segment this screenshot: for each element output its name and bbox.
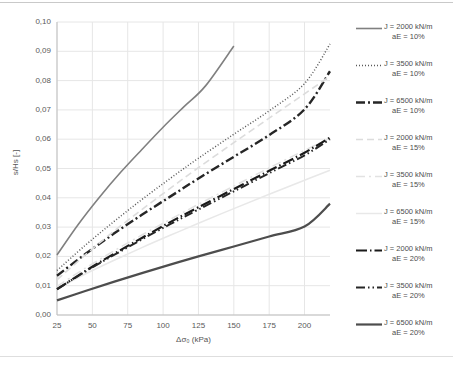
- series-line: [57, 46, 234, 255]
- series-line: [57, 71, 330, 276]
- y-tick-label: 0,06: [21, 134, 51, 143]
- legend-label: J = 2000 kN/maE = 20%: [382, 244, 433, 264]
- legend-line-swatch: [356, 97, 382, 108]
- x-tick-label: 125: [183, 321, 213, 330]
- legend-label-line1: J = 6500 kN/m: [382, 318, 433, 328]
- x-tick-label: 50: [77, 321, 107, 330]
- y-tick-label: 0,08: [21, 76, 51, 85]
- legend-line-swatch: [356, 319, 382, 330]
- x-tick-label: 75: [113, 321, 143, 330]
- y-tick-label: 0,05: [21, 164, 51, 173]
- legend-label-line2: aE = 15%: [382, 217, 433, 227]
- legend-label-line1: J = 3500 kN/m: [382, 170, 433, 180]
- legend-label-line2: aE = 10%: [382, 106, 433, 116]
- legend-item[interactable]: J = 3500 kN/maE = 15%: [356, 170, 451, 203]
- legend-label: J = 6500 kN/maE = 10%: [382, 96, 433, 116]
- legend-label-line2: aE = 20%: [382, 254, 433, 264]
- x-tick-label: 25: [42, 321, 72, 330]
- legend-item[interactable]: J = 2000 kN/maE = 20%: [356, 244, 451, 277]
- series-line: [57, 76, 330, 280]
- legend-line-swatch: [356, 60, 382, 71]
- x-tick-label: 150: [219, 321, 249, 330]
- y-axis-title: s/Hs [-]: [11, 128, 20, 198]
- y-axis-title-wrap: s/Hs [-]: [8, 130, 22, 200]
- chart-legend: J = 2000 kN/maE = 10%J = 3500 kN/maE = 1…: [356, 22, 451, 355]
- y-tick-label: 0,10: [21, 17, 51, 26]
- legend-label-line2: aE = 20%: [382, 291, 433, 301]
- y-tick-label: 0,01: [21, 281, 51, 290]
- legend-item[interactable]: J = 6500 kN/maE = 20%: [356, 318, 451, 351]
- legend-label: J = 3500 kN/maE = 20%: [382, 281, 433, 301]
- x-tick-label: 100: [148, 321, 178, 330]
- legend-item[interactable]: J = 2000 kN/maE = 15%: [356, 133, 451, 166]
- legend-line-swatch: [356, 245, 382, 256]
- legend-label-line2: aE = 10%: [382, 69, 433, 79]
- legend-item[interactable]: J = 6500 kN/maE = 10%: [356, 96, 451, 129]
- legend-label-line2: aE = 15%: [382, 180, 433, 190]
- legend-label-line1: J = 2000 kN/m: [382, 22, 433, 32]
- legend-item[interactable]: J = 3500 kN/maE = 20%: [356, 281, 451, 314]
- y-tick-label: 0,03: [21, 222, 51, 231]
- legend-label: J = 2000 kN/maE = 15%: [382, 133, 433, 153]
- legend-label: J = 3500 kN/maE = 10%: [382, 59, 433, 79]
- y-tick-label: 0,00: [21, 310, 51, 319]
- y-tick-label: 0,09: [21, 46, 51, 55]
- legend-label-line1: J = 3500 kN/m: [382, 281, 433, 291]
- legend-item[interactable]: J = 2000 kN/maE = 10%: [356, 22, 451, 55]
- y-tick-label: 0,04: [21, 193, 51, 202]
- legend-label: J = 6500 kN/maE = 15%: [382, 207, 433, 227]
- y-tick-label: 0,02: [21, 251, 51, 260]
- chart-figure: s/Hs [-] Δσ₀ (kPa) 0,000,010,020,030,040…: [0, 0, 453, 369]
- legend-line-swatch: [356, 134, 382, 145]
- legend-label-line2: aE = 15%: [382, 143, 433, 153]
- legend-label-line1: J = 6500 kN/m: [382, 207, 433, 217]
- legend-item[interactable]: J = 3500 kN/maE = 10%: [356, 59, 451, 92]
- legend-item[interactable]: J = 6500 kN/maE = 15%: [356, 207, 451, 240]
- x-axis-title: Δσ₀ (kPa): [57, 335, 330, 344]
- x-tick-label: 200: [290, 321, 320, 330]
- legend-label-line1: J = 3500 kN/m: [382, 59, 433, 69]
- series-line: [57, 170, 330, 288]
- legend-label-line1: J = 2000 kN/m: [382, 133, 433, 143]
- y-tick-label: 0,07: [21, 105, 51, 114]
- legend-label-line2: aE = 20%: [382, 328, 433, 338]
- legend-line-swatch: [356, 282, 382, 293]
- series-line: [57, 137, 330, 289]
- series-line: [57, 44, 330, 270]
- legend-label: J = 6500 kN/maE = 20%: [382, 318, 433, 338]
- legend-line-swatch: [356, 208, 382, 219]
- legend-label-line1: J = 2000 kN/m: [382, 244, 433, 254]
- legend-label-line1: J = 6500 kN/m: [382, 96, 433, 106]
- legend-line-swatch: [356, 171, 382, 182]
- legend-label: J = 3500 kN/maE = 15%: [382, 170, 433, 190]
- legend-label-line2: aE = 10%: [382, 32, 433, 42]
- legend-line-swatch: [356, 23, 382, 34]
- legend-label: J = 2000 kN/maE = 10%: [382, 22, 433, 42]
- x-tick-label: 175: [254, 321, 284, 330]
